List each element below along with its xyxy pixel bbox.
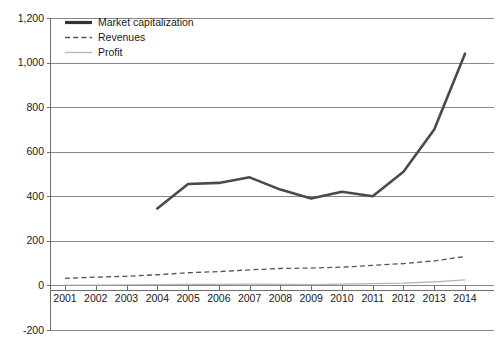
x-tick-label-2001: 2001 (53, 292, 77, 304)
x-tick-label-2004: 2004 (146, 292, 170, 304)
x-tick-label-2003: 2003 (115, 292, 139, 304)
legend-label-market-capitalization: Market capitalization (98, 16, 194, 28)
y-tick-label-800: 800 (26, 101, 44, 113)
series-line-revenues (65, 256, 465, 278)
series-line-profit (65, 280, 465, 285)
x-tick-label-2011: 2011 (361, 292, 384, 304)
y-tick-labels-group: 1,2001,0008006004002000-200 (18, 12, 51, 336)
y-tick-label-400: 400 (26, 190, 44, 202)
x-tick-label-2012: 2012 (392, 292, 416, 304)
y-tick-label--200: -200 (23, 324, 44, 336)
x-tick-label-2014: 2014 (453, 292, 477, 304)
y-tick-label-200: 200 (26, 234, 44, 246)
y-tick-label-1200: 1,200 (18, 12, 44, 24)
x-tick-label-2005: 2005 (176, 292, 200, 304)
x-tick-label-2008: 2008 (269, 292, 293, 304)
x-tick-label-2010: 2010 (330, 292, 354, 304)
legend-label-profit: Profit (98, 46, 123, 58)
chart-container: 1,2001,0008006004002000-200 200120022003… (0, 0, 502, 357)
x-tick-label-2007: 2007 (238, 292, 262, 304)
chart-legend: Market capitalization Revenues Profit (65, 16, 194, 58)
x-tick-label-2013: 2013 (423, 292, 447, 304)
y-tick-label-0: 0 (38, 279, 44, 291)
x-tick-label-2009: 2009 (299, 292, 323, 304)
line-chart: 1,2001,0008006004002000-200 200120022003… (0, 0, 502, 357)
x-tick-label-2002: 2002 (84, 292, 108, 304)
series-line-market-capitalization (157, 54, 465, 209)
y-tick-label-600: 600 (26, 145, 44, 157)
x-tick-label-2006: 2006 (207, 292, 231, 304)
legend-label-revenues: Revenues (98, 31, 145, 43)
x-tick-labels-group: 2001200220032004200520062007200820092010… (53, 292, 477, 304)
y-tick-label-1000: 1,000 (18, 56, 44, 68)
